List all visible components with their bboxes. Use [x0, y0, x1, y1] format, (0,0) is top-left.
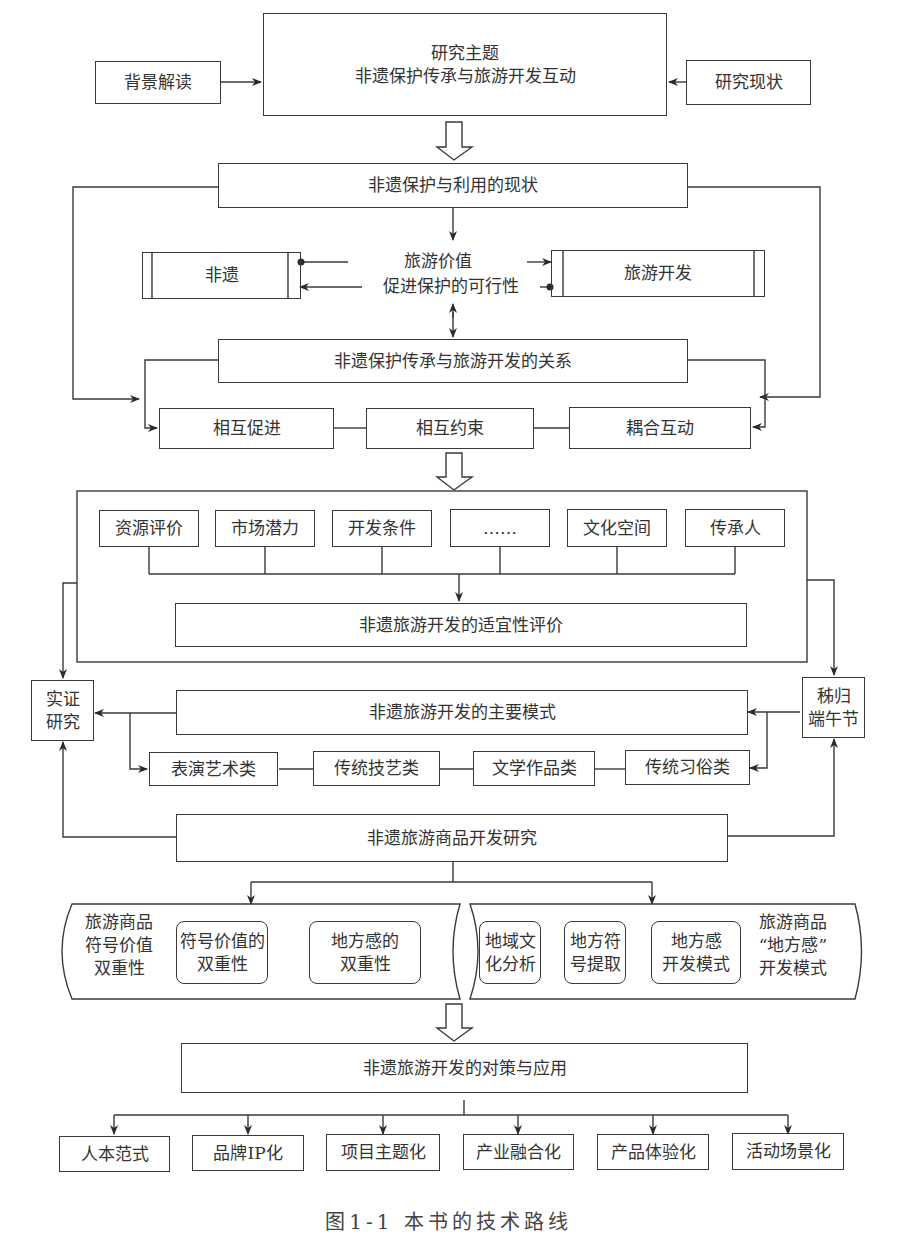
zigui-line2: 端午节 — [808, 708, 859, 730]
mode-label: 文学作品类 — [492, 757, 577, 779]
background-reading-box: 背景解读 — [95, 61, 221, 104]
tourism-development-node-box: 旅游开发 — [551, 250, 765, 297]
panel-label-line: 符号价值 — [75, 934, 163, 957]
strategy-application-box: 非遗旅游开发的对策与应用 — [181, 1043, 748, 1093]
relation-item-coupling-interaction: 耦合互动 — [569, 407, 751, 449]
research-topic-subtitle: 非遗保护传承与旅游开发互动 — [355, 65, 576, 87]
mode-label: 表演艺术类 — [171, 758, 256, 780]
panel-label-line: 开发模式 — [747, 957, 839, 980]
heritage-status-label: 非遗保护与利用的现状 — [368, 174, 538, 196]
factor-label: 市场潜力 — [231, 517, 299, 539]
item-line: 双重性 — [340, 953, 391, 975]
figure-caption: 图1-1 本书的技术路线 — [0, 1206, 897, 1235]
strategy-application-label: 非遗旅游开发的对策与应用 — [363, 1057, 567, 1079]
heritage-status-box: 非遗保护与利用的现状 — [218, 163, 688, 208]
factor-cultural-space: 文化空间 — [567, 509, 667, 547]
background-reading-label: 背景解读 — [124, 71, 192, 93]
mode-traditional-crafts: 传统技艺类 — [313, 751, 440, 786]
panel-label-line: 双重性 — [75, 957, 163, 980]
strategy-label: 活动场景化 — [746, 1140, 831, 1162]
panel-label-line: “地方感” — [747, 934, 839, 957]
strategy-label: 人本范式 — [81, 1143, 149, 1165]
relation-item-mutual-promotion: 相互促进 — [159, 408, 334, 449]
factor-label: 文化空间 — [583, 517, 651, 539]
factor-inheritor: 传承人 — [685, 509, 785, 547]
suitability-evaluation-box: 非遗旅游开发的适宜性评价 — [175, 603, 747, 647]
tourism-products-label: 非遗旅游商品开发研究 — [367, 827, 537, 849]
relation-item-label: 相互促进 — [213, 417, 281, 439]
empirical-research-line1: 实证 — [46, 688, 80, 710]
empirical-research-line2: 研究 — [46, 711, 80, 733]
strategy-brand-ip: 品牌IP化 — [192, 1135, 304, 1171]
tourism-products-box: 非遗旅游商品开发研究 — [176, 814, 728, 862]
research-status-box: 研究现状 — [686, 60, 811, 105]
strategy-project-theming: 项目主题化 — [326, 1134, 440, 1171]
strategy-label: 品牌IP化 — [213, 1142, 282, 1164]
mode-label: 传统习俗类 — [645, 756, 730, 778]
strategy-label: 产业融合化 — [476, 1141, 561, 1163]
relationship-label: 非遗保护传承与旅游开发的关系 — [334, 350, 572, 372]
item-line: 地域文 — [485, 930, 536, 952]
relation-item-mutual-constraint: 相互约束 — [366, 408, 534, 449]
strategy-human-oriented: 人本范式 — [59, 1136, 170, 1172]
factor-label: 资源评价 — [115, 517, 183, 539]
suitability-evaluation-label: 非遗旅游开发的适宜性评价 — [359, 614, 563, 636]
item-line: 开发模式 — [662, 953, 730, 975]
zigui-dragon-boat-box: 秭归 端午节 — [802, 677, 865, 738]
heritage-node-box: 非遗 — [142, 252, 301, 299]
tourism-development-node-label: 旅游开发 — [624, 262, 692, 284]
sense-of-place-duality-box: 地方感的 双重性 — [309, 921, 421, 984]
strategy-product-experience: 产品体验化 — [597, 1134, 709, 1170]
factor-label: 开发条件 — [348, 517, 416, 539]
sense-of-place-mode-box: 地方感 开发模式 — [651, 921, 741, 984]
regional-culture-analysis-box: 地域文 化分析 — [479, 921, 541, 984]
factor-development-conditions: 开发条件 — [332, 510, 432, 547]
mode-performing-arts: 表演艺术类 — [149, 752, 278, 786]
main-modes-box: 非遗旅游开发的主要模式 — [176, 690, 748, 735]
empirical-research-box: 实证 研究 — [31, 680, 94, 741]
relation-item-label: 耦合互动 — [626, 417, 694, 439]
heritage-node-label: 非遗 — [205, 264, 239, 286]
mode-traditional-customs: 传统习俗类 — [625, 750, 750, 785]
research-topic-box: 研究主题 非遗保护传承与旅游开发互动 — [263, 13, 667, 116]
factor-resource-evaluation: 资源评价 — [99, 510, 199, 547]
panel-label-line: 旅游商品 — [747, 911, 839, 934]
relation-item-label: 相互约束 — [416, 417, 484, 439]
symbol-value-duality-box: 符号价值的 双重性 — [176, 921, 268, 984]
relationship-box: 非遗保护传承与旅游开发的关系 — [218, 339, 688, 383]
factor-market-potential: 市场潜力 — [215, 510, 315, 547]
symbol-value-duality-label: 旅游商品 符号价值 双重性 — [75, 911, 163, 980]
factor-label: …… — [483, 517, 517, 539]
item-line: 符号价值的 — [180, 930, 265, 952]
item-line: 双重性 — [197, 953, 248, 975]
strategy-label: 项目主题化 — [341, 1141, 426, 1163]
tourism-value-label: 旅游价值 — [350, 250, 526, 272]
zigui-line1: 秭归 — [817, 685, 851, 707]
local-symbol-extraction-box: 地方符 号提取 — [564, 921, 626, 984]
item-line: 地方感 — [671, 930, 722, 952]
strategy-industry-integration: 产业融合化 — [463, 1134, 574, 1170]
strategy-activity-scenario: 活动场景化 — [732, 1133, 844, 1170]
item-line: 地方感的 — [331, 930, 399, 952]
panel-label-line: 旅游商品 — [75, 911, 163, 934]
mode-literary-works: 文学作品类 — [473, 751, 595, 786]
sense-of-place-development-label: 旅游商品 “地方感” 开发模式 — [747, 911, 839, 980]
item-line: 化分析 — [485, 953, 536, 975]
main-modes-label: 非遗旅游开发的主要模式 — [369, 701, 556, 723]
item-line: 地方符 — [570, 930, 621, 952]
research-topic-title: 研究主题 — [431, 42, 499, 64]
research-status-label: 研究现状 — [715, 71, 783, 93]
factor-label: 传承人 — [710, 517, 761, 539]
protection-feasibility-label: 促进保护的可行性 — [362, 275, 540, 297]
item-line: 号提取 — [570, 953, 621, 975]
strategy-label: 产品体验化 — [611, 1141, 696, 1163]
mode-label: 传统技艺类 — [334, 757, 419, 779]
factor-ellipsis: …… — [450, 509, 550, 547]
